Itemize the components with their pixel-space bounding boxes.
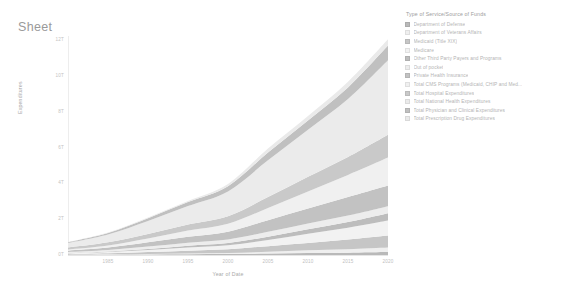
legend-swatch-icon (405, 30, 410, 35)
y-axis-tick-label: 8T (58, 110, 64, 115)
x-axis-tick-label: 1995 (182, 259, 193, 264)
legend-item-label: Medicaid (Title XIX) (414, 39, 458, 44)
y-axis-tick-label: 4T (58, 181, 64, 186)
legend-item-label: Total National Health Expenditures (414, 99, 491, 104)
stacked-area-chart (68, 36, 388, 255)
legend-item[interactable]: Other Third Party Payers and Programs (405, 54, 561, 63)
legend-swatch-icon (405, 82, 410, 87)
x-axis-tick-labels: 19851990199520002005201020152020 (68, 259, 388, 269)
x-axis-title: Year of Date (68, 271, 388, 277)
y-axis-tick-label: 2T (58, 217, 64, 222)
legend-item[interactable]: Department of Veterans Affairs (405, 29, 561, 38)
legend-swatch-icon (405, 116, 410, 121)
legend-swatch-icon (405, 56, 410, 61)
legend-item[interactable]: Medicaid (Title XIX) (405, 37, 561, 46)
legend-item[interactable]: Out of pocket (405, 63, 561, 72)
x-axis-tick-label: 2010 (302, 259, 313, 264)
legend-item-label: Total Hospital Expenditures (414, 91, 475, 96)
legend-item[interactable]: Department of Defense (405, 20, 561, 29)
legend-swatch-icon (405, 22, 410, 27)
x-axis-tick-label: 1990 (142, 259, 153, 264)
x-axis-tick-label: 2020 (382, 259, 393, 264)
legend-swatch-icon (405, 108, 410, 113)
legend-item[interactable]: Total National Health Expenditures (405, 97, 561, 106)
legend-item-label: Department of Veterans Affairs (414, 30, 482, 35)
legend-item-label: Out of pocket (414, 65, 444, 70)
legend-swatch-icon (405, 73, 410, 78)
y-axis-title: Expenditures (17, 34, 23, 114)
legend-title: Type of Service/Source of Funds (406, 11, 561, 17)
x-axis-line (68, 255, 388, 256)
legend-item-label: Other Third Party Payers and Programs (414, 56, 502, 61)
legend: Type of Service/Source of Funds Departme… (405, 11, 561, 123)
legend-item-label: Total Prescription Drug Expenditures (414, 116, 495, 121)
legend-swatch-icon (405, 48, 410, 53)
legend-list: Department of DefenseDepartment of Veter… (405, 20, 561, 123)
y-axis-tick-label: 12T (55, 38, 64, 43)
y-axis-tick-labels: 12T10T8T6T4T2T0T (38, 38, 64, 253)
visualization-panel: Expenditures 12T10T8T6T4T2T0T 1985199019… (0, 10, 400, 285)
legend-item-label: Medicare (414, 48, 435, 53)
y-axis-tick-label: 6T (58, 146, 64, 151)
x-axis-tick-label: 1985 (102, 259, 113, 264)
legend-swatch-icon (405, 99, 410, 104)
legend-item[interactable]: Total Hospital Expenditures (405, 89, 561, 98)
x-axis-tick-label: 2000 (222, 259, 233, 264)
legend-item[interactable]: Private Health Insurance (405, 72, 561, 81)
y-axis-tick-label: 0T (58, 253, 64, 258)
legend-item[interactable]: Medicare (405, 46, 561, 55)
y-axis-tick-label: 10T (55, 74, 64, 79)
x-axis-tick-label: 2005 (262, 259, 273, 264)
x-axis-tick-label: 2015 (342, 259, 353, 264)
legend-item[interactable]: Total CMS Programs (Medicaid, CHIP and M… (405, 80, 561, 89)
legend-item-label: Private Health Insurance (414, 73, 469, 78)
legend-item-label: Total Physician and Clinical Expenditure… (414, 108, 506, 113)
legend-swatch-icon (405, 39, 410, 44)
plot-area (68, 36, 388, 255)
legend-item-label: Total CMS Programs (Medicaid, CHIP and M… (414, 82, 523, 87)
legend-swatch-icon (405, 65, 410, 70)
legend-swatch-icon (405, 91, 410, 96)
tableau-worksheet: Sheet Expenditures 12T10T8T6T4T2T0T 1985… (0, 0, 563, 289)
legend-item[interactable]: Total Physician and Clinical Expenditure… (405, 106, 561, 115)
legend-item-label: Department of Defense (414, 22, 466, 27)
legend-item[interactable]: Total Prescription Drug Expenditures (405, 115, 561, 124)
